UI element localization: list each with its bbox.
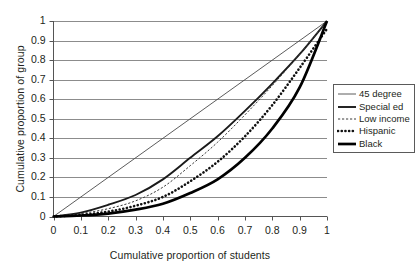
y-tick-label: 0.7: [12, 73, 46, 85]
legend-swatch-icon: [337, 102, 357, 112]
y-tick-label: 0.1: [12, 190, 46, 202]
y-tick-label: 0.3: [12, 151, 46, 163]
legend-item-special-ed[interactable]: Special ed: [334, 100, 414, 112]
x-tick-label: 0.6: [205, 224, 231, 236]
legend-item-45-degree[interactable]: 45 degree: [334, 88, 414, 100]
y-tick-label: 0.5: [12, 112, 46, 124]
legend-swatch-icon: [337, 139, 357, 149]
chart-legend: 45 degreeSpecial edLow incomeHispanicBla…: [333, 84, 415, 153]
legend-item-label: Low income: [359, 114, 410, 124]
legend-item-black[interactable]: Black: [334, 138, 414, 150]
x-tick-label: 0.1: [68, 224, 94, 236]
x-tick-label: 0.9: [287, 224, 313, 236]
legend-swatch-icon: [337, 126, 357, 136]
x-tick-label: 0.2: [95, 224, 121, 236]
data-series-group: [54, 21, 328, 217]
y-tick-label: 0.6: [12, 92, 46, 104]
x-tick-label: 0: [41, 224, 67, 236]
legend-item-label: Black: [359, 139, 382, 149]
y-tick-label: 0.9: [12, 34, 46, 46]
x-tick-label: 0.7: [232, 224, 258, 236]
x-axis-title: Cumulative proportion of students: [0, 249, 380, 261]
legend-swatch-icon: [337, 114, 357, 124]
x-tick-label: 0.8: [259, 224, 285, 236]
legend-swatch-icon: [337, 89, 357, 99]
y-tick-label: 0: [12, 210, 46, 222]
y-tick-label: 1: [12, 14, 46, 26]
legend-item-low-income[interactable]: Low income: [334, 113, 414, 125]
x-tick-label: 1: [314, 224, 340, 236]
x-tick-label: 0.3: [123, 224, 149, 236]
legend-item-hispanic[interactable]: Hispanic: [334, 125, 414, 137]
legend-item-label: Hispanic: [359, 126, 395, 136]
y-tick-label: 0.8: [12, 53, 46, 65]
x-tick-label: 0.4: [150, 224, 176, 236]
y-tick-marks: [50, 22, 54, 218]
y-tick-label: 0.4: [12, 131, 46, 143]
legend-item-label: 45 degree: [359, 89, 402, 99]
lorenz-curve-chart: Cumulative proportion of group Cumulativ…: [0, 0, 420, 270]
series-line-45-degree: [54, 21, 328, 217]
x-tick-marks: [55, 217, 328, 221]
y-tick-label: 0.2: [12, 170, 46, 182]
series-line-hispanic: [54, 29, 328, 217]
x-tick-label: 0.5: [177, 224, 203, 236]
legend-item-label: Special ed: [359, 102, 403, 112]
